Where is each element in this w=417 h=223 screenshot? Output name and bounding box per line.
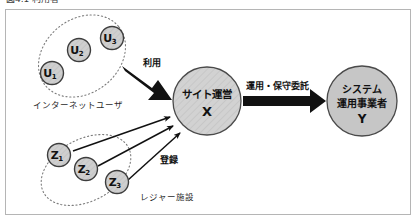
node-u1: U1 bbox=[41, 62, 64, 85]
group-label-leisure-facilities: レジャー施設 bbox=[140, 192, 194, 202]
node-system-line1: システム bbox=[342, 84, 382, 95]
edge-ops-arrow bbox=[243, 89, 326, 113]
node-site-circle bbox=[173, 67, 241, 135]
node-z1: Z1 bbox=[48, 144, 71, 167]
node-u2: U2 bbox=[68, 39, 91, 62]
thick-arrow-use bbox=[122, 66, 172, 100]
thick-arrow-ops bbox=[243, 89, 326, 113]
node-system-line3: Y bbox=[357, 112, 367, 126]
node-site-operator: サイト運営 X bbox=[173, 67, 241, 135]
diagram-canvas: U1 U2 U3 Z1 Z2 Z3 サイト運営 X bbox=[0, 0, 417, 223]
group-label-internet-users: インターネットユーザ bbox=[33, 100, 123, 110]
edge-use-arrow bbox=[122, 66, 172, 100]
node-z3: Z3 bbox=[106, 171, 129, 194]
node-site-line2: X bbox=[202, 104, 212, 119]
node-u3: U3 bbox=[101, 27, 124, 50]
node-system-operator: システム 運用事業者 Y bbox=[327, 66, 397, 136]
node-z2: Z2 bbox=[75, 158, 98, 181]
edge-z1-to-site bbox=[73, 117, 170, 151]
edge-label-register: 登録 bbox=[159, 154, 179, 165]
edge-label-use: 利用 bbox=[142, 57, 161, 68]
edge-label-ops: 運用・保守委託 bbox=[246, 80, 309, 91]
node-site-line1: サイト運営 bbox=[182, 88, 232, 100]
figure-screenshot: 図4.1 利用者 bbox=[0, 0, 417, 223]
node-system-line2: 運用事業者 bbox=[337, 97, 387, 109]
